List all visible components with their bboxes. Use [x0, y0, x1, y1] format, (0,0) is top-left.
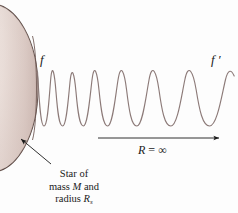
gravitational-redshift-figure: f f ′ R=∞ Star of mass M and radius Rs: [0, 0, 238, 213]
caption-line-1: Star of: [26, 168, 122, 181]
star-caption: Star of mass M and radius Rs: [26, 168, 122, 207]
source-frequency-label: f: [40, 52, 44, 68]
caption-mass-prefix: mass: [49, 181, 73, 192]
caption-mass-suffix: and: [81, 181, 99, 192]
caption-radius-prefix: radius: [55, 193, 83, 204]
mass-symbol: M: [73, 181, 82, 192]
light-wave: [38, 71, 235, 126]
distance-equals-sign: =: [145, 143, 158, 157]
star-pointer-arrow: [21, 139, 51, 164]
caption-line-3: radius Rs: [26, 193, 122, 207]
caption-line-2: mass M and: [26, 181, 122, 194]
observed-frequency-label: f ′: [211, 52, 221, 68]
radius-subscript: s: [90, 198, 93, 206]
star-body: [0, 4, 38, 172]
distance-label: R=∞: [138, 143, 167, 158]
infinity-symbol: ∞: [158, 143, 167, 157]
